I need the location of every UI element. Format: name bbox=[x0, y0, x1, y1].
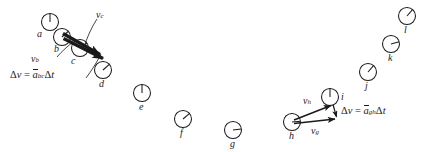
clock-label-k: k bbox=[388, 53, 392, 63]
clock-label-e: e bbox=[139, 102, 143, 112]
delta-v-bc-equation: Δv = abcΔt bbox=[10, 70, 54, 81]
a-bar-right: a bbox=[364, 106, 369, 117]
clock-group-a bbox=[42, 14, 59, 31]
motion-diagram-figure: a b c d e f g h i j k l vb vc vh vg Δv =… bbox=[0, 0, 429, 152]
vector-label-vc: vc bbox=[96, 10, 104, 20]
delta2-symbol-right: Δ bbox=[376, 105, 383, 116]
vector-label-vg: vg bbox=[311, 126, 319, 136]
clock-label-h: h bbox=[289, 131, 294, 141]
clock-group-k bbox=[383, 36, 400, 53]
vector-delta-v-gh-arrow bbox=[333, 105, 337, 118]
vector-vh-arrow bbox=[294, 106, 331, 121]
delta-symbol-right: Δ bbox=[341, 105, 348, 116]
clock-label-f: f bbox=[180, 128, 183, 138]
vector-label-vb: vb bbox=[31, 54, 39, 64]
clock-label-g: g bbox=[230, 139, 235, 149]
a-symbol-right: a bbox=[364, 105, 369, 116]
vector-label-vh: vh bbox=[303, 96, 311, 106]
clock-group-i bbox=[322, 89, 339, 106]
clock-label-b: b bbox=[54, 44, 59, 54]
clock-group-f bbox=[175, 111, 192, 128]
clock-label-c: c bbox=[71, 56, 75, 66]
a-subscript-right: gh bbox=[369, 108, 376, 116]
clock-label-i: i bbox=[341, 92, 344, 102]
clock-group-d bbox=[95, 62, 112, 79]
clock-group-l bbox=[399, 8, 416, 25]
delta-symbol-left: Δ bbox=[10, 69, 17, 80]
vh-subscript: h bbox=[307, 98, 311, 106]
t-symbol-right: t bbox=[383, 105, 386, 116]
delta-v-gh-equation: Δv = aghΔt bbox=[341, 106, 386, 117]
clock-group-g bbox=[225, 122, 242, 139]
diagram-canvas bbox=[0, 0, 429, 152]
clock-label-d: d bbox=[99, 79, 104, 89]
vg-subscript: g bbox=[315, 128, 319, 136]
vb-subscript: b bbox=[35, 56, 39, 64]
clock-group-h bbox=[284, 114, 301, 131]
vc-subscript: c bbox=[100, 12, 103, 20]
a-symbol-left: a bbox=[33, 69, 38, 80]
clock-group-j bbox=[360, 64, 377, 81]
clock-label-a: a bbox=[37, 29, 42, 39]
t-symbol-left: t bbox=[51, 69, 54, 80]
a-bar-left: a bbox=[33, 70, 38, 81]
clock-label-j: j bbox=[365, 81, 368, 91]
clock-group-e bbox=[134, 85, 151, 102]
clock-label-l: l bbox=[404, 25, 407, 35]
